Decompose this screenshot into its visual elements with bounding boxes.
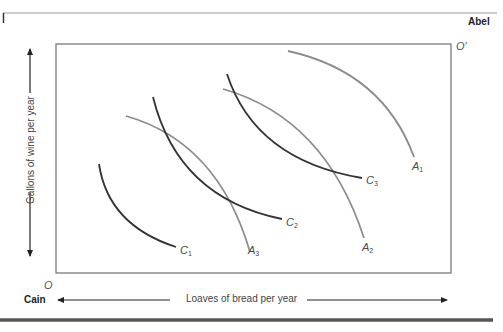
y-axis-label: Gallons of wine per year	[25, 96, 36, 204]
edgeworth-box-diagram: Abel Cain O′ O Gallons of wine per year …	[0, 0, 503, 332]
cain-curve-c2	[153, 97, 282, 219]
curve-label-a1: A1	[412, 160, 423, 173]
abel-curve-a1	[288, 51, 414, 157]
diagram-canvas	[0, 0, 503, 332]
cain-label: Cain	[24, 294, 46, 305]
curve-label-c3: C3	[366, 174, 378, 187]
cain-curve-c1	[99, 164, 176, 247]
abel-label: Abel	[468, 16, 490, 27]
cain-origin-label: O	[44, 279, 53, 291]
edgeworth-box	[56, 44, 451, 273]
curve-label-c2: C2	[286, 216, 298, 229]
abel-origin-label: O′	[456, 40, 467, 52]
curve-label-a3: A3	[248, 244, 259, 257]
x-axis-label: Loaves of bread per year	[186, 293, 297, 304]
abel-curve-a3	[126, 116, 250, 252]
curve-label-c1: C1	[180, 244, 192, 257]
curve-label-a2: A2	[362, 241, 373, 254]
